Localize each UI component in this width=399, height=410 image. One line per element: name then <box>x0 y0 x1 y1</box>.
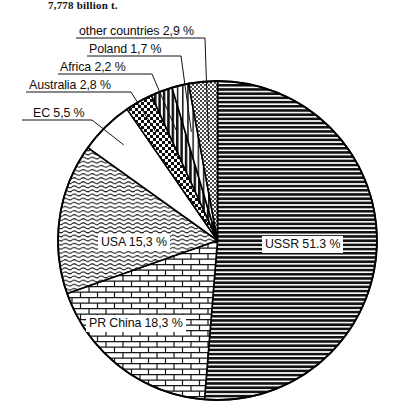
pie-chart-figure: 7,778 billion t. <box>0 0 399 410</box>
callout-label-ec: EC 5,5 % <box>33 106 85 120</box>
pie-label-pr-china: PR China 18,3 % <box>86 315 186 332</box>
callout-label-africa: Africa 2,2 % <box>60 60 126 74</box>
callout-label-poland: Poland 1,7 % <box>89 42 162 56</box>
callout-label-other-countries: other countries 2,9 % <box>79 24 194 38</box>
pie-label-ussr: USSR 51.3 % <box>262 236 343 253</box>
callout-label-australia: Australia 2,8 % <box>29 78 111 92</box>
pie-label-usa: USA 15,3 % <box>98 234 170 251</box>
